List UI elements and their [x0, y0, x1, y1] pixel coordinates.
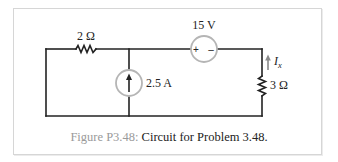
resistor-2ohm-icon — [76, 46, 96, 53]
figure-caption-text: Circuit for Problem 3.48. — [138, 130, 267, 144]
current-direction-arrow-icon — [265, 55, 271, 71]
resistor-3ohm-icon — [259, 76, 266, 96]
figure-caption-label: Figure P3.48: — [70, 130, 138, 144]
resistor-2ohm-label: 2 Ω — [77, 29, 95, 43]
voltage-plus-sign: + — [193, 44, 199, 55]
figure-caption: Figure P3.48: Circuit for Problem 3.48. — [0, 130, 338, 145]
current-ix-subscript: x — [277, 60, 282, 70]
voltage-source-label: 15 V — [192, 18, 216, 32]
current-ix-label: Ix — [273, 54, 282, 70]
current-source-label: 2.5 A — [146, 76, 172, 90]
resistor-3ohm-label: 3 Ω — [270, 78, 288, 92]
voltage-minus-sign: – — [208, 44, 214, 55]
current-source-icon — [116, 70, 142, 96]
